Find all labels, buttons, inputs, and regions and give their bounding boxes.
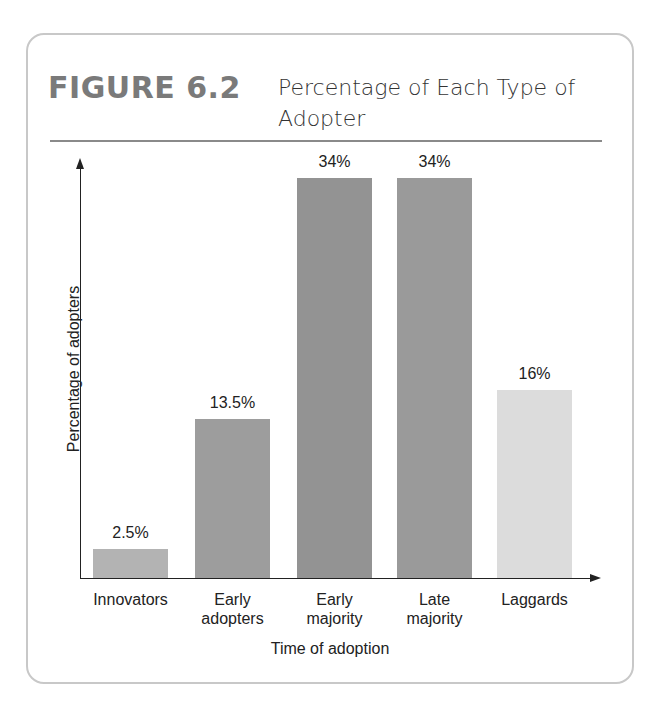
- category-label-line: Early: [280, 590, 390, 609]
- bar-value-label: 2.5%: [81, 524, 181, 542]
- category-label-line: Early: [178, 590, 288, 609]
- category-label: Laggards: [480, 590, 590, 609]
- figure-title: Percentage of Each Type of Adopter: [278, 72, 618, 134]
- bar-innovators: [93, 549, 168, 578]
- category-label: Earlymajority: [280, 590, 390, 628]
- category-label-line: Laggards: [480, 590, 590, 609]
- title-divider: [50, 140, 602, 142]
- bar-laggards: [497, 390, 572, 578]
- bar-early-adopters: [195, 419, 270, 578]
- bar-value-label: 16%: [485, 365, 585, 383]
- bar-late-majority: [397, 178, 472, 578]
- x-axis: [80, 578, 592, 579]
- category-label-line: Late: [380, 590, 490, 609]
- y-axis-arrow-icon: [76, 158, 84, 169]
- bar-early-majority: [297, 178, 372, 578]
- bar-value-label: 13.5%: [183, 394, 283, 412]
- category-label-line: adopters: [178, 609, 288, 628]
- category-label-line: majority: [280, 609, 390, 628]
- category-label: Latemajority: [380, 590, 490, 628]
- category-label-line: majority: [380, 609, 490, 628]
- bar-value-label: 34%: [285, 153, 385, 171]
- figure-number: FIGURE 6.2: [48, 70, 241, 105]
- category-label-line: Innovators: [76, 590, 186, 609]
- y-axis-label: Percentage of adopters: [65, 249, 83, 489]
- bar-value-label: 34%: [385, 153, 485, 171]
- x-axis-label: Time of adoption: [230, 640, 430, 658]
- category-label: Innovators: [76, 590, 186, 609]
- x-axis-arrow-icon: [590, 574, 601, 582]
- category-label: Earlyadopters: [178, 590, 288, 628]
